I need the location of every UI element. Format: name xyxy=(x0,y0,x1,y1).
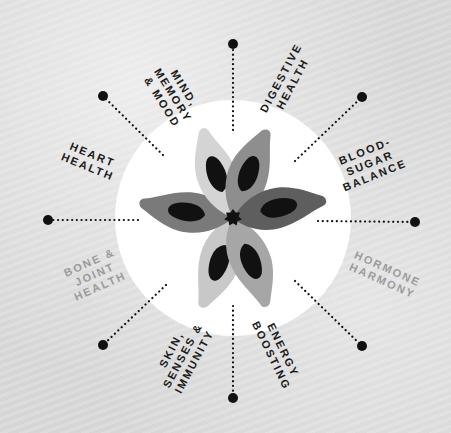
dot-ne-icon xyxy=(357,92,367,102)
dot-nw-icon xyxy=(98,91,108,101)
dot-e-icon xyxy=(410,217,420,227)
spoke-sw xyxy=(103,285,166,345)
wellness-wheel-diagram: MIND, MEMORY & MOOD DIGESTIVE HEALTH BLO… xyxy=(0,0,451,433)
spoke-e xyxy=(318,221,415,222)
dot-sw-icon xyxy=(98,340,108,350)
spoke-se xyxy=(295,281,362,346)
dot-s-icon xyxy=(228,393,238,403)
dot-n-icon xyxy=(228,39,238,49)
dot-w-icon xyxy=(43,215,53,225)
wheel-graphic xyxy=(0,0,451,433)
dot-se-icon xyxy=(357,341,367,351)
